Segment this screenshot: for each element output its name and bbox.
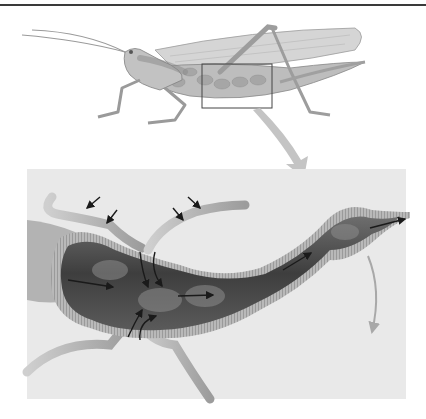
- grasshopper-illustration: [22, 27, 365, 123]
- magnify-arrow-icon: [253, 108, 308, 178]
- gut-flow-arrow-icon: [178, 295, 213, 296]
- diagram-canvas: [0, 0, 426, 419]
